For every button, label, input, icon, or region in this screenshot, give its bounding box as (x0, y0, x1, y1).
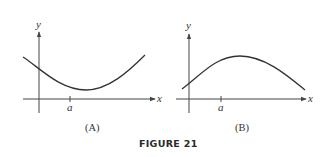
panel-b-label: (B) (235, 122, 250, 134)
panel-a-y-label: y (35, 18, 41, 30)
panel-a-label: (A) (85, 122, 100, 134)
panel-b-x-label: x (307, 92, 313, 104)
panel-a-tick-label: a (67, 101, 73, 113)
panel-b: y x a (B) (176, 19, 313, 134)
panel-b-y-label: y (185, 19, 191, 31)
panel-a: y x a (A) (23, 18, 162, 134)
panel-a-x-label: x (156, 92, 162, 104)
figure-21: y x a (A) y x a (B) FIGURE 21 (0, 0, 334, 157)
panel-b-tick-label: a (218, 101, 224, 113)
panel-b-curve (182, 56, 305, 90)
panel-a-curve (23, 55, 145, 90)
figure-caption: FIGURE 21 (139, 138, 198, 149)
